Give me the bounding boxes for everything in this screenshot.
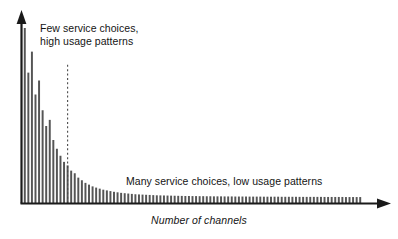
x-axis-arrowhead-icon bbox=[377, 199, 391, 209]
bar bbox=[334, 197, 336, 203]
bar bbox=[277, 197, 279, 203]
bar bbox=[295, 197, 297, 203]
bar bbox=[59, 156, 61, 203]
bar bbox=[106, 190, 108, 203]
bar bbox=[352, 197, 354, 203]
bar bbox=[174, 196, 176, 203]
bar bbox=[206, 196, 208, 203]
bar bbox=[266, 197, 268, 203]
bar bbox=[149, 195, 151, 203]
bar bbox=[77, 178, 79, 203]
bar bbox=[270, 197, 272, 203]
bar bbox=[213, 196, 215, 203]
bar bbox=[27, 73, 29, 203]
bar bbox=[167, 196, 169, 203]
bar bbox=[209, 196, 211, 203]
bar bbox=[170, 196, 172, 203]
bar bbox=[324, 197, 326, 203]
bar bbox=[245, 197, 247, 203]
bar bbox=[359, 197, 361, 203]
bar bbox=[256, 197, 258, 203]
bar bbox=[341, 197, 343, 203]
bar bbox=[327, 197, 329, 203]
annotation-head-label: Few service choices,high usage patterns bbox=[40, 22, 138, 47]
bar bbox=[134, 194, 136, 203]
bar bbox=[220, 196, 222, 203]
bar bbox=[152, 195, 154, 203]
bar bbox=[252, 197, 254, 203]
bar bbox=[142, 195, 144, 203]
bar bbox=[117, 192, 119, 203]
long-tail-distribution-figure: Few service choices,high usage patterns … bbox=[0, 0, 398, 239]
bar bbox=[217, 196, 219, 203]
bar bbox=[42, 110, 44, 203]
bar bbox=[127, 194, 129, 203]
bar bbox=[195, 196, 197, 203]
bar bbox=[306, 197, 308, 203]
bar bbox=[81, 180, 83, 203]
bar bbox=[159, 195, 161, 203]
bar bbox=[338, 197, 340, 203]
bar bbox=[313, 197, 315, 203]
bar bbox=[74, 173, 76, 203]
annotation-head-line2: high usage patterns bbox=[40, 35, 133, 47]
bar bbox=[345, 197, 347, 203]
bar bbox=[70, 171, 72, 203]
bar bbox=[56, 149, 58, 203]
bar bbox=[259, 197, 261, 203]
bar bbox=[84, 183, 86, 203]
bar bbox=[156, 195, 158, 203]
bar bbox=[331, 197, 333, 203]
bar bbox=[241, 197, 243, 203]
x-axis-label: Number of channels bbox=[0, 214, 398, 226]
bar bbox=[224, 196, 226, 203]
bar bbox=[181, 196, 183, 203]
bar bbox=[238, 197, 240, 203]
bar bbox=[349, 197, 351, 203]
bar bbox=[177, 196, 179, 203]
bar bbox=[124, 193, 126, 203]
bar bbox=[99, 189, 101, 203]
bar bbox=[88, 185, 90, 203]
bar bbox=[202, 196, 204, 203]
bar bbox=[45, 126, 47, 203]
bar bbox=[291, 197, 293, 203]
bar bbox=[274, 197, 276, 203]
annotation-head-line1: Few service choices, bbox=[40, 22, 138, 34]
bar bbox=[92, 186, 94, 203]
bar bbox=[24, 28, 26, 203]
bar bbox=[95, 188, 97, 203]
bar bbox=[145, 195, 147, 203]
bar bbox=[31, 52, 33, 203]
bar bbox=[109, 191, 111, 203]
bar bbox=[249, 197, 251, 203]
bar bbox=[63, 162, 65, 203]
bar bbox=[309, 197, 311, 203]
bar bbox=[35, 95, 37, 204]
bar bbox=[288, 197, 290, 203]
bar bbox=[120, 193, 122, 203]
bar bbox=[263, 197, 265, 203]
bar bbox=[231, 196, 233, 203]
bar bbox=[199, 196, 201, 203]
bar bbox=[184, 196, 186, 203]
bar bbox=[113, 192, 115, 203]
bar bbox=[320, 197, 322, 203]
bar bbox=[192, 196, 194, 203]
bar bbox=[316, 197, 318, 203]
bar bbox=[234, 197, 236, 203]
bar bbox=[356, 197, 358, 203]
bar bbox=[227, 196, 229, 203]
bar bbox=[38, 81, 40, 204]
bar bbox=[299, 197, 301, 203]
bar bbox=[102, 190, 104, 203]
bar bbox=[302, 197, 304, 203]
y-axis-arrowhead-icon bbox=[17, 10, 27, 24]
bar bbox=[131, 194, 133, 203]
bar bbox=[52, 140, 54, 203]
bar bbox=[49, 120, 51, 203]
bar bbox=[138, 194, 140, 203]
bar bbox=[284, 197, 286, 203]
bar bbox=[163, 195, 165, 203]
bar bbox=[281, 197, 283, 203]
